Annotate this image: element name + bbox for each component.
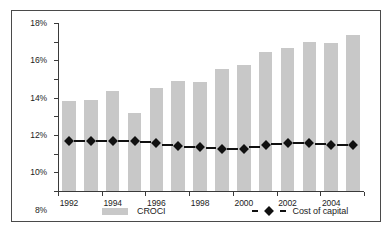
- chart-legend: CROCI Cost of capital: [58, 203, 366, 219]
- y-axis-tick: 16%: [54, 42, 58, 43]
- x-axis-tick: [145, 192, 146, 196]
- bar: [106, 91, 120, 191]
- y-axis-tick-label: 14%: [30, 93, 47, 103]
- y-axis-tick: 4%: [54, 154, 58, 155]
- y-axis-tick-label: 8%: [35, 205, 47, 215]
- legend-item-croci: CROCI: [102, 206, 166, 216]
- y-axis-tick-label: 10%: [30, 167, 47, 177]
- legend-dashed-line-icon: [252, 207, 286, 216]
- y-axis-tick-label: 18%: [30, 18, 47, 28]
- y-axis-tick: 18%: [54, 23, 58, 24]
- chart-figure: 0%2%4%6%8%10%12%14%16%18% 19921994199619…: [11, 10, 381, 222]
- bar: [62, 101, 76, 191]
- x-axis-tick: [233, 192, 234, 196]
- x-axis-tick: [364, 192, 365, 196]
- x-axis-tick: [277, 192, 278, 196]
- y-axis-tick: 12%: [54, 79, 58, 80]
- y-axis: [58, 23, 59, 192]
- legend-swatch-icon: [102, 208, 128, 215]
- y-axis-tick-label: 16%: [30, 55, 47, 65]
- line-series-cost-of-capital: [58, 23, 364, 192]
- y-axis-tick: 6%: [54, 135, 58, 136]
- x-axis-tick: [189, 192, 190, 196]
- bar: [150, 88, 164, 191]
- y-axis-tick: 10%: [54, 98, 58, 99]
- bar: [193, 82, 207, 191]
- plot-area: 0%2%4%6%8%10%12%14%16%18% 19921994199619…: [58, 23, 364, 192]
- y-axis-tick: 8%: [54, 116, 58, 117]
- y-axis-tick: 14%: [54, 60, 58, 61]
- bar: [215, 69, 229, 191]
- x-axis-tick: [102, 192, 103, 196]
- bar: [259, 52, 273, 191]
- bar: [324, 43, 338, 191]
- y-axis-tick: 2%: [54, 172, 58, 173]
- bar: [281, 48, 295, 191]
- legend-item-cost-of-capital: Cost of capital: [252, 206, 349, 216]
- x-axis: [58, 191, 364, 192]
- legend-label-cost-of-capital: Cost of capital: [293, 206, 349, 216]
- bar: [171, 81, 185, 191]
- x-axis-tick: [58, 192, 59, 196]
- bar: [303, 42, 317, 191]
- bar: [84, 100, 98, 191]
- bar: [237, 65, 251, 191]
- x-axis-tick: [320, 192, 321, 196]
- legend-label-croci: CROCI: [137, 206, 166, 216]
- bar: [346, 35, 360, 191]
- bar: [128, 113, 142, 191]
- y-axis-tick-label: 12%: [30, 130, 47, 140]
